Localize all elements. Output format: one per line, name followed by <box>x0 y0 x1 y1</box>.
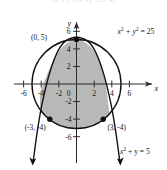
point-label-3-neg4: (3, -4) <box>107 123 126 132</box>
x-tick-label-neg6: -6 <box>20 89 27 98</box>
y-tick-label-2: 2 <box>67 62 71 71</box>
point-3-neg4 <box>101 117 106 122</box>
point-label-neg3-neg4: (-3, -4) <box>25 123 46 132</box>
x-axis-letter: x <box>154 84 159 93</box>
equation-circle-label: x2 + y2 = 25 <box>117 26 155 36</box>
y-tick-label-neg2: -2 <box>65 97 72 106</box>
y-tick-label-4: 4 <box>67 45 71 54</box>
x-tick-label-neg2: -2 <box>56 89 63 98</box>
y-tick-label-neg4: -4 <box>65 115 72 124</box>
x-tick-label-2: 2 <box>92 89 96 98</box>
y-axis-letter: y <box>67 19 72 28</box>
equation-parabola-label: x2 + y = 5 <box>119 146 150 156</box>
graph-canvas: (0, 5) (-3, -4) (3, -4) x2 + y2 = 25 x2 … <box>0 0 167 170</box>
origin-label: 0 <box>67 89 71 98</box>
y-tick-label-6: 6 <box>67 27 71 36</box>
point-label-0-5: (0, 5) <box>31 33 48 42</box>
point-neg3-neg4 <box>47 117 52 122</box>
parabola-left-arrow <box>29 157 36 165</box>
x-tick-label-6: 6 <box>128 89 132 98</box>
x-tick-label-neg4: -4 <box>38 89 45 98</box>
circle-eq-tail: = 25 <box>139 27 155 36</box>
x-tick-label-4: 4 <box>110 89 114 98</box>
parabola-right-arrow <box>117 157 124 165</box>
point-0-5 <box>74 37 79 42</box>
y-tick-label-neg6: -6 <box>65 133 72 142</box>
circle-eq-mid: + y <box>124 27 137 36</box>
math-figure: 11.1 ( -12 4) ±12 4) <box>0 0 167 170</box>
parabola-eq-tail: + y = 5 <box>126 147 150 156</box>
